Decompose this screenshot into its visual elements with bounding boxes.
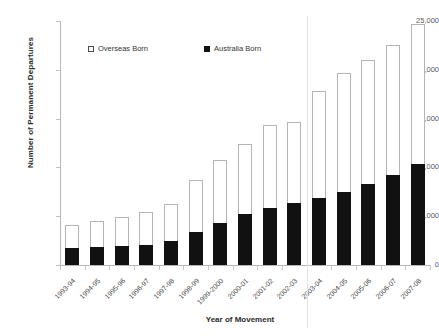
reference-line <box>307 16 308 328</box>
x-axis-tick-mark <box>109 266 110 270</box>
x-axis-tick-mark <box>85 266 86 270</box>
legend-label-overseas: Overseas Born <box>98 44 148 53</box>
bar-segment-australia-born[interactable] <box>411 164 425 265</box>
bar-segment-australia-born[interactable] <box>90 247 104 265</box>
bar-segment-australia-born[interactable] <box>65 248 79 265</box>
bar-stack[interactable] <box>337 73 351 265</box>
legend-label-australia: Australia Born <box>214 44 261 53</box>
bar-stack[interactable] <box>90 221 104 265</box>
x-axis-tick-mark <box>183 266 184 270</box>
bar-segment-australia-born[interactable] <box>312 198 326 265</box>
bar-stack[interactable] <box>139 212 153 265</box>
x-axis-tick-mark <box>430 266 431 270</box>
x-axis-tick-mark <box>233 266 234 270</box>
bar-stack[interactable] <box>312 91 326 265</box>
bar-segment-australia-born[interactable] <box>213 223 227 265</box>
x-axis-tick-mark <box>257 266 258 270</box>
bar-stack[interactable] <box>164 204 178 265</box>
legend-swatch-icon-australia <box>204 46 210 52</box>
bar-stack[interactable] <box>65 225 79 265</box>
x-axis-tick-mark <box>282 266 283 270</box>
bar-segment-australia-born[interactable] <box>238 214 252 265</box>
x-axis-tick-mark <box>331 266 332 270</box>
x-axis-tick-mark <box>60 266 61 270</box>
x-axis-line <box>60 265 431 266</box>
x-axis-tick-mark <box>134 266 135 270</box>
x-axis-tick-mark <box>208 266 209 270</box>
y-axis-title: Number of Permanent Departures <box>26 0 35 213</box>
legend-item-australia-born: Australia Born <box>204 44 261 53</box>
bar-stack[interactable] <box>287 122 301 265</box>
bar-stack[interactable] <box>361 60 375 265</box>
bar-stack[interactable] <box>238 144 252 266</box>
bar-segment-australia-born[interactable] <box>189 232 203 265</box>
bar-segment-australia-born[interactable] <box>386 175 400 265</box>
plot-area <box>60 21 430 265</box>
x-axis-tick-mark <box>159 266 160 270</box>
legend-item-overseas-born: Overseas Born <box>88 44 148 53</box>
legend-swatch-icon-overseas <box>88 46 94 52</box>
bar-segment-australia-born[interactable] <box>287 203 301 265</box>
x-axis-tick-mark <box>356 266 357 270</box>
bar-segment-australia-born[interactable] <box>115 246 129 265</box>
bar-stack[interactable] <box>263 125 277 265</box>
bar-segment-australia-born[interactable] <box>139 245 153 265</box>
bar-stack[interactable] <box>386 45 400 265</box>
bar-stack[interactable] <box>115 217 129 265</box>
bar-chart: Number of Permanent Departures Year of M… <box>0 0 439 336</box>
bar-stack[interactable] <box>189 180 203 265</box>
bar-segment-australia-born[interactable] <box>337 192 351 265</box>
x-axis-tick-mark <box>405 266 406 270</box>
bar-segment-australia-born[interactable] <box>263 208 277 265</box>
bar-stack[interactable] <box>213 160 227 265</box>
bar-stack[interactable] <box>411 24 425 265</box>
bar-segment-australia-born[interactable] <box>164 241 178 265</box>
chart-legend: Overseas Born Australia Born <box>88 44 261 53</box>
bar-segment-australia-born[interactable] <box>361 184 375 265</box>
x-axis-tick-mark <box>381 266 382 270</box>
